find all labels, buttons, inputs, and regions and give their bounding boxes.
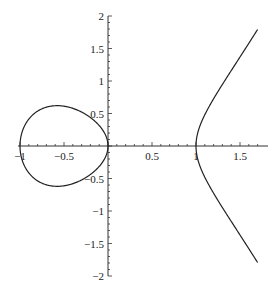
x-tick-label: 1.5 xyxy=(233,150,247,162)
y-tick-label: 1 xyxy=(99,75,105,87)
y-tick-label: −0.5 xyxy=(84,173,104,185)
x-tick-label: −0.5 xyxy=(54,150,74,162)
y-tick-label: −1 xyxy=(92,205,104,217)
elliptic-curve-plot: −1−0.50.511.521.510.5−0.5−1−1.5−2 xyxy=(0,0,280,291)
y-tick-label: 1.5 xyxy=(90,43,104,55)
x-tick-label: 0.5 xyxy=(145,150,159,162)
y-tick-label: −1.5 xyxy=(84,238,104,250)
y-tick-label: 2 xyxy=(99,10,105,22)
y-tick-label: 0.5 xyxy=(90,108,104,120)
y-tick-label: −2 xyxy=(92,270,104,282)
